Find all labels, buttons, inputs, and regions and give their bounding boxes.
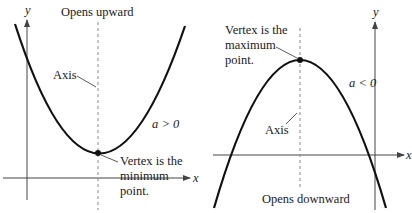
left-y-axis-label: y <box>23 3 31 17</box>
right-condition: a < 0 <box>349 76 377 90</box>
right-panel-downward: x y Vertex is the maximum point. a < 0 A… <box>213 5 412 210</box>
right-vertex-point <box>297 57 303 63</box>
right-axis-leader <box>286 113 297 124</box>
right-vertex-leader <box>276 47 297 58</box>
left-x-axis-label: x <box>192 171 199 185</box>
left-axis-leader <box>77 76 96 87</box>
right-x-axis-label: x <box>405 148 412 162</box>
left-condition: a > 0 <box>152 117 180 131</box>
left-vertex-label-3: point. <box>120 184 149 198</box>
left-title: Opens upward <box>61 5 134 19</box>
left-vertex-leader <box>101 155 118 162</box>
left-vertex-point <box>95 150 101 156</box>
right-axis-label: Axis <box>265 123 289 137</box>
right-y-axis-label: y <box>371 5 379 19</box>
left-panel-upward: x y Opens upward Axis a > 0 Vertex is th… <box>3 3 199 210</box>
left-vertex-label-2: minimum <box>120 169 169 183</box>
left-parabola-curve <box>15 24 185 154</box>
parabola-figure: x y Opens upward Axis a > 0 Vertex is th… <box>0 0 412 213</box>
right-vertex-label-1: Vertex is the <box>225 23 288 37</box>
right-vertex-label-3: point. <box>225 53 254 67</box>
right-vertex-label-2: maximum <box>225 38 276 52</box>
right-title: Opens downward <box>262 192 351 206</box>
left-axis-label: Axis <box>53 68 77 82</box>
left-vertex-label-1: Vertex is the <box>120 154 183 168</box>
